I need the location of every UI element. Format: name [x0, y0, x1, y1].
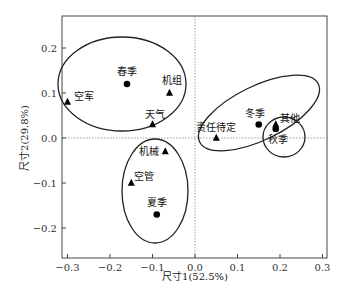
x-tick-label: 0.3: [315, 262, 331, 273]
y-tick-label: 0.0: [41, 133, 57, 144]
y-tick-label: 0.2: [41, 43, 57, 54]
x-axis-title: 尺寸1(52.5%): [162, 270, 228, 282]
x-tick-label: −0.3: [55, 262, 79, 273]
point-label: 其他: [280, 112, 300, 124]
circle-marker: [124, 81, 131, 88]
point-label: 春季: [117, 66, 137, 77]
triangle-marker: [272, 120, 279, 127]
point-label: 空军: [74, 90, 94, 102]
data-points: 春季夏季冬季秋季空军机组天气机械空管责任待定其他: [64, 66, 300, 218]
y-tick-label: −0.2: [33, 223, 57, 234]
point-label: 夏季: [147, 197, 167, 208]
point-label: 空管: [134, 170, 154, 182]
y-tick-label: −0.1: [33, 178, 57, 189]
x-tick-label: −0.1: [140, 262, 164, 273]
circle-marker: [255, 121, 262, 128]
point-label: 秋季: [268, 133, 288, 145]
point-label: 冬季: [245, 107, 265, 119]
y-axis-ticks: −0.2−0.10.00.10.2: [33, 43, 66, 234]
x-tick-label: 0.1: [230, 262, 246, 273]
triangle-marker: [166, 89, 173, 96]
triangle-marker: [64, 98, 71, 105]
triangle-marker: [162, 147, 169, 154]
point-label: 机械: [139, 145, 159, 157]
cluster-ellipses: [58, 37, 330, 243]
circle-marker: [153, 211, 160, 218]
point-label: 天气: [145, 108, 165, 120]
point-label: 责任待定: [196, 121, 236, 133]
y-tick-label: 0.1: [41, 88, 57, 99]
x-tick-label: −0.2: [98, 262, 122, 273]
scatter-plot: −0.3−0.2−0.10.00.10.20.3 −0.2−0.10.00.10…: [0, 0, 348, 302]
x-tick-label: 0.2: [272, 262, 288, 273]
y-axis-title: 尺寸2(29.8%): [18, 105, 30, 171]
point-label: 机组: [162, 74, 182, 86]
triangle-marker: [213, 134, 220, 141]
